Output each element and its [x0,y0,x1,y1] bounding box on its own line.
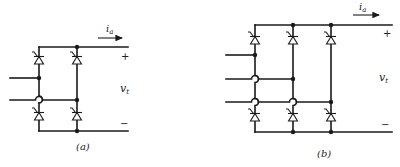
panel-b-thyristor-3-icon [286,32,298,44]
panel-b-junction-dot [291,77,295,81]
panel-b-thyristor-6-icon [286,109,298,121]
panel-a-plus-sign: + [121,51,129,62]
panel-b-junction-dot [329,130,333,134]
panel-a-thyristor-4-icon [32,108,44,120]
panel-a-single-phase-bridge: ia + vt − (a) [10,23,129,152]
panel-b-voltage-label: vt [379,71,388,85]
panel-a-junction-dot [37,76,41,80]
panel-a-current-label: ia [106,23,113,36]
panel-b-caption: (b) [317,148,331,159]
panel-b-thyristor-2-icon [324,109,336,121]
panel-b-junction-dot [329,23,333,27]
panel-b-minus-sign: − [381,119,389,130]
panel-a-voltage-label: vt [120,82,129,96]
panel-a-ac-input-2 [10,97,77,100]
panel-a-junction-dot [75,98,79,102]
panel-b-thyristor-4-icon [248,109,260,121]
panel-b-plus-sign: + [383,28,391,39]
panel-a-junction-dot [75,129,79,133]
panel-a-thyristor-2-icon [70,108,82,120]
panel-b-junction-dot [329,100,333,104]
panel-b-junction-dot [253,53,257,57]
panel-b-ac-input-3 [226,99,331,102]
panel-b-current-label: ia [359,1,366,14]
panel-b-ac-input-2 [226,76,293,79]
panel-a-thyristor-1-icon [32,52,44,64]
panel-b-thyristor-1-icon [248,32,260,44]
panel-a-junction-dot [75,45,79,49]
figure-canvas: ia + vt − (a) [0,0,400,167]
panel-b-junction-dot [291,23,295,27]
panel-a-thyristor-3-icon [70,52,82,64]
panel-b-thyristor-5-icon [324,32,336,44]
panel-b-junction-dot [291,130,295,134]
panel-a-minus-sign: − [120,118,128,129]
panel-b-three-phase-bridge: ia + vt − (b) [226,1,392,159]
panel-a-caption: (a) [76,141,90,152]
